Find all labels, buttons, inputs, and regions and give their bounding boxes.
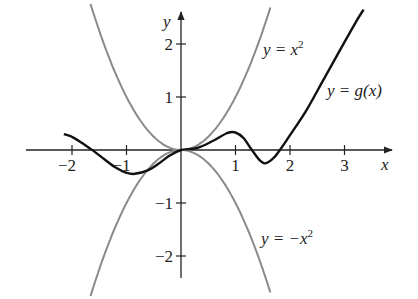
y-tick-label: −2 bbox=[155, 247, 173, 266]
x-axis-label: x bbox=[380, 155, 389, 174]
y-tick-label: 2 bbox=[165, 35, 174, 54]
y-tick-label: 1 bbox=[165, 88, 174, 107]
x-tick-label: 2 bbox=[286, 156, 295, 175]
x-tick-label: 3 bbox=[340, 156, 349, 175]
curve-g bbox=[64, 10, 364, 174]
curve-label-neg-x-squared: y = −x2 bbox=[259, 227, 313, 248]
function-graph: −2−112321−1−2 x y y = x2 y = g(x) y = −x… bbox=[0, 0, 418, 299]
curve-label-g: y = g(x) bbox=[325, 81, 382, 100]
y-tick-label: −1 bbox=[155, 194, 173, 213]
x-tick-label: 1 bbox=[231, 156, 240, 175]
x-tick-label: −2 bbox=[58, 156, 76, 175]
curve-label-x-squared: y = x2 bbox=[261, 38, 304, 59]
y-axis-label: y bbox=[161, 12, 171, 31]
